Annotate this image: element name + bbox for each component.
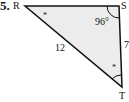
vertex-label-t: T bbox=[119, 90, 125, 101]
angle-s-label: 96° bbox=[95, 16, 109, 27]
side-st-label: 7 bbox=[124, 39, 129, 50]
triangle-diagram: R S T 96° 12 7 * * bbox=[0, 0, 129, 102]
vertex-label-s: S bbox=[121, 0, 127, 11]
angle-mark-t: * bbox=[112, 63, 116, 72]
side-rt-label: 12 bbox=[55, 42, 65, 53]
vertex-label-r: R bbox=[13, 0, 20, 11]
angle-mark-r: * bbox=[43, 11, 47, 20]
